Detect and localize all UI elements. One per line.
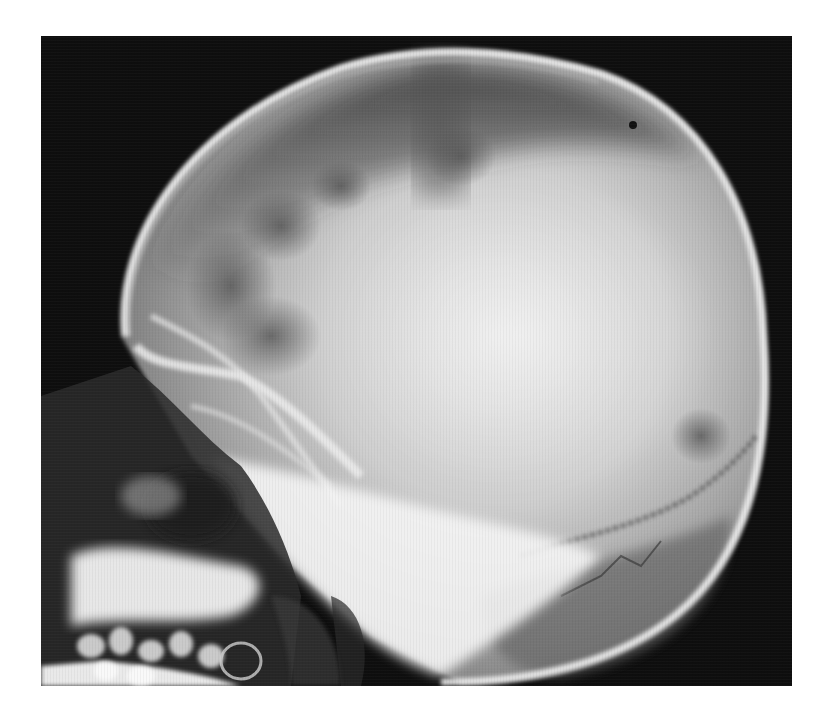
radiograph-drawing (41, 36, 792, 686)
film-artifact-spot (629, 121, 637, 129)
skull-radiograph (41, 36, 792, 686)
clipped-header-text (0, 0, 828, 6)
